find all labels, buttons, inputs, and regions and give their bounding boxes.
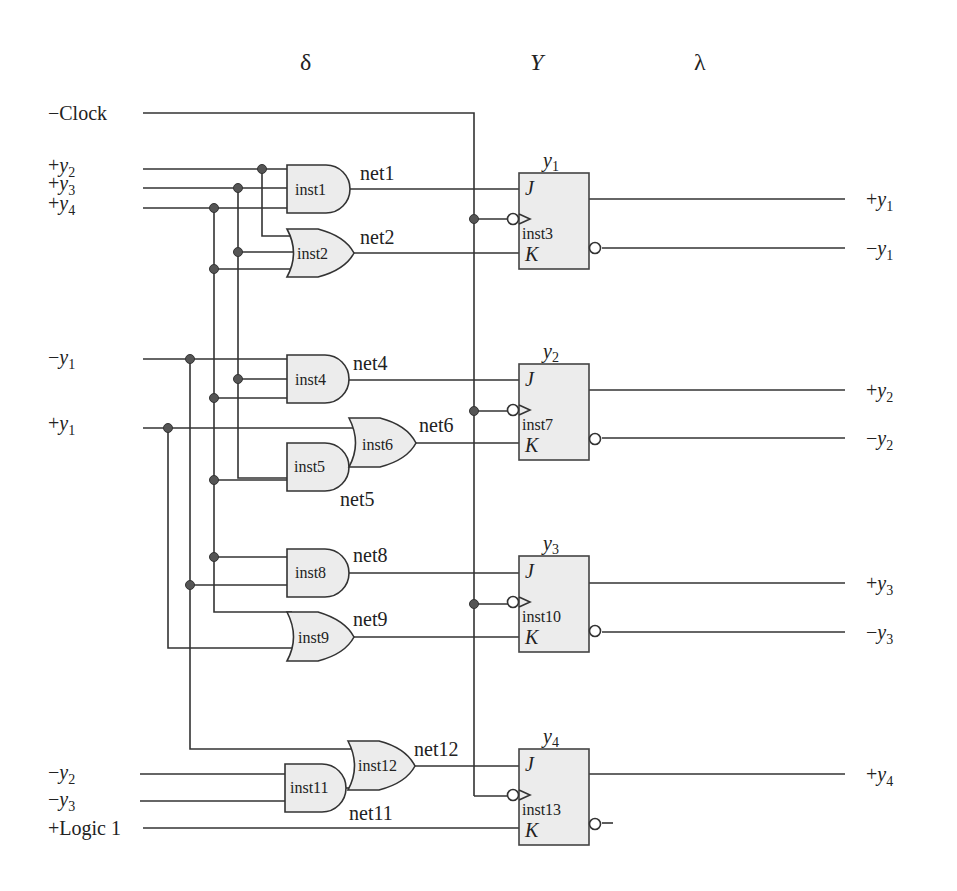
output-label: −y3: [866, 621, 893, 647]
flipflop-title: y2: [541, 340, 559, 365]
gate-inst5: inst5: [287, 443, 349, 491]
junction-dot: [258, 165, 267, 174]
svg-text:inst11: inst11: [290, 779, 329, 796]
clock-inversion-bubble-icon: [508, 597, 519, 608]
flipflop-k-pin: K: [524, 434, 540, 456]
flipflop-instance-label: inst13: [522, 801, 561, 818]
junction-dot: [210, 476, 219, 485]
qbar-inversion-bubble-icon: [590, 434, 601, 445]
net-label-net8: net8: [353, 544, 387, 566]
gate-inst4: inst4: [287, 355, 349, 403]
junction-dot: [234, 248, 243, 257]
junction-dot: [234, 184, 243, 193]
junction-dot: [470, 407, 479, 416]
net-label-net12: net12: [414, 738, 458, 760]
svg-text:inst6: inst6: [362, 436, 393, 453]
svg-text:inst12: inst12: [358, 757, 397, 774]
gate-inst2: inst2: [287, 229, 354, 277]
output-label: −y2: [866, 427, 893, 453]
svg-text:inst1: inst1: [295, 181, 326, 198]
net-label-net2: net2: [360, 226, 394, 248]
junction-dot: [470, 600, 479, 609]
junction-dot: [164, 424, 173, 433]
gate-inst6: inst6: [349, 418, 416, 467]
flipflop-inst3: y1JKinst3: [508, 149, 601, 269]
svg-text:inst5: inst5: [294, 458, 325, 475]
flipflop-j-pin: J: [525, 560, 535, 582]
header-lambda: λ: [694, 49, 706, 75]
output-label: +y1: [866, 188, 893, 214]
header-delta: δ: [300, 49, 311, 75]
clock-inversion-bubble-icon: [508, 790, 519, 801]
svg-text:inst9: inst9: [298, 629, 329, 646]
qbar-inversion-bubble-icon: [590, 243, 601, 254]
svg-text:inst8: inst8: [295, 564, 326, 581]
output-label: +y3: [866, 572, 893, 598]
clock-inversion-bubble-icon: [508, 214, 519, 225]
junction-dot: [210, 204, 219, 213]
flipflop-k-pin: K: [524, 243, 540, 265]
input-label-ny3: −y3: [48, 788, 75, 814]
input-label-clock: −Clock: [48, 102, 107, 124]
junction-dot: [186, 581, 195, 590]
flipflop-title: y1: [541, 149, 559, 174]
flipflop-j-pin: J: [525, 177, 535, 199]
flipflop-k-pin: K: [524, 819, 540, 841]
circuit-diagram: δ Y λ −Clock +y2 +y3 +y4 −y1 +y1 −y2 −y3…: [0, 0, 957, 891]
input-label-ny2: −y2: [48, 761, 75, 787]
gate-inst9: inst9: [287, 612, 354, 661]
junction-dot: [210, 553, 219, 562]
flipflops: y1JKinst3y2JKinst7y3JKinst10y4JKinst13: [508, 149, 601, 845]
qbar-inversion-bubble-icon: [590, 626, 601, 637]
flipflop-title: y4: [541, 725, 559, 750]
gate-inst12: inst12: [348, 741, 415, 790]
gate-inst8: inst8: [287, 549, 349, 597]
input-label-logic1: +Logic 1: [48, 817, 121, 840]
gate-inst1: inst1: [287, 165, 350, 213]
flipflop-title: y3: [541, 532, 559, 557]
net-label-net9: net9: [353, 608, 387, 630]
output-label: +y2: [866, 379, 893, 405]
wire-py1-bus: [168, 428, 292, 648]
flipflop-inst10: y3JKinst10: [508, 532, 601, 652]
svg-text:inst4: inst4: [295, 371, 326, 388]
flipflop-instance-label: inst10: [522, 608, 561, 625]
header-Y: Y: [530, 49, 546, 75]
net-label-net1: net1: [360, 162, 394, 184]
flipflop-j-pin: J: [525, 753, 535, 775]
junction-dot: [234, 375, 243, 384]
input-label-py1: +y1: [48, 412, 75, 438]
output-labels: +y1−y1+y2−y2+y3−y3+y4: [866, 188, 893, 789]
gate-inst11: inst11: [285, 764, 346, 812]
net-label-net6: net6: [419, 414, 453, 436]
flipflop-instance-label: inst7: [522, 416, 553, 433]
clock-inversion-bubble-icon: [508, 405, 519, 416]
junction-dot: [210, 265, 219, 274]
net-label-net11: net11: [349, 802, 393, 824]
junction-dot: [186, 355, 195, 364]
flipflop-j-pin: J: [525, 368, 535, 390]
net-label-net5: net5: [340, 488, 374, 510]
flipflop-inst13: y4JKinst13: [508, 725, 601, 845]
flipflop-instance-label: inst3: [522, 225, 553, 242]
output-label: −y1: [866, 237, 893, 263]
net-label-net4: net4: [353, 352, 387, 374]
qbar-inversion-bubble-icon: [590, 819, 601, 830]
output-label: +y4: [866, 763, 893, 789]
input-label-ny1: −y1: [48, 346, 75, 372]
flipflop-inst7: y2JKinst7: [508, 340, 601, 460]
flipflop-k-pin: K: [524, 626, 540, 648]
wires: [140, 113, 845, 828]
svg-text:inst2: inst2: [297, 245, 328, 262]
junction-dot: [210, 394, 219, 403]
junction-dot: [470, 215, 479, 224]
